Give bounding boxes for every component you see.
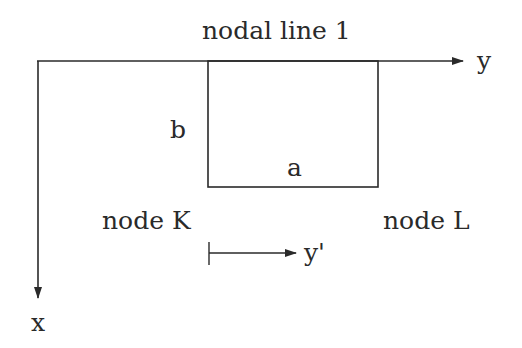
side-a-label: a (287, 155, 302, 180)
x-axis-label: x (31, 310, 45, 335)
side-b-label: b (170, 117, 186, 142)
local-y-axis-label: y' (304, 240, 325, 265)
node-k-label: node K (102, 208, 191, 233)
y-axis-label: y (477, 48, 491, 73)
plate-element-diagram: nodal line 1 y b a node K node L y' x (0, 0, 522, 348)
node-l-label: node L (383, 208, 470, 233)
diagram-lines (0, 0, 522, 348)
nodal-line-label: nodal line 1 (202, 18, 351, 43)
